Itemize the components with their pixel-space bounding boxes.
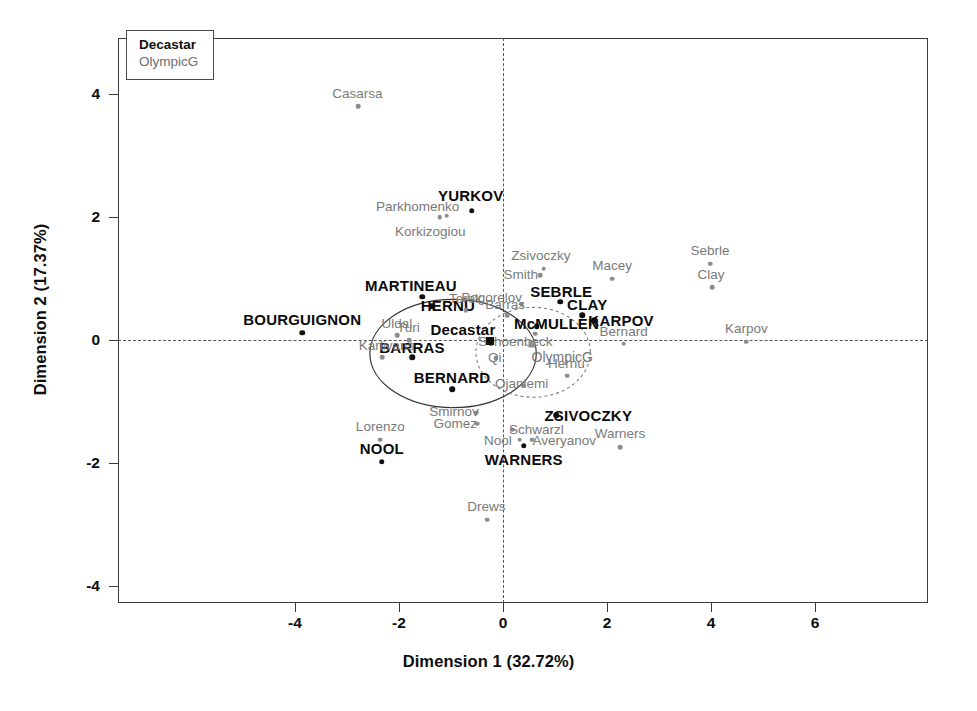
point-label: Parkhomenko bbox=[376, 198, 459, 213]
data-point bbox=[521, 443, 527, 449]
point-label: Bernard bbox=[600, 323, 648, 338]
x-tick-label: -2 bbox=[392, 614, 406, 632]
point-label: Lorenzo bbox=[356, 419, 405, 434]
point-label: Warners bbox=[595, 426, 646, 441]
data-point bbox=[505, 313, 510, 318]
point-label: MARTINEAU bbox=[365, 276, 457, 293]
data-point bbox=[538, 273, 543, 278]
legend-entry-olympicg: OlympicG bbox=[139, 53, 213, 70]
point-label: Smith bbox=[503, 267, 538, 282]
data-point bbox=[517, 437, 522, 442]
point-label: Terek bbox=[449, 291, 482, 306]
point-label: Nool bbox=[484, 432, 512, 447]
x-tick bbox=[815, 603, 816, 612]
data-point bbox=[445, 213, 450, 218]
data-point bbox=[469, 208, 475, 214]
x-tick bbox=[399, 603, 400, 612]
chart-canvas: -4-20246-4-2024 YURKOVMARTINEAUHERNUBOUR… bbox=[0, 0, 977, 711]
point-label: Casarsa bbox=[332, 85, 382, 100]
x-tick bbox=[607, 603, 608, 612]
point-label: OlympicG bbox=[532, 349, 593, 365]
data-point bbox=[409, 354, 415, 360]
centroid-marker bbox=[486, 337, 494, 345]
point-label: McMULLEN bbox=[514, 314, 599, 331]
data-point bbox=[565, 373, 570, 378]
data-point bbox=[463, 308, 468, 313]
y-tick bbox=[109, 340, 118, 341]
y-tick-label: 2 bbox=[74, 208, 100, 226]
y-tick bbox=[109, 586, 118, 587]
x-tick bbox=[711, 603, 712, 612]
data-point bbox=[744, 340, 749, 345]
data-point bbox=[300, 330, 306, 336]
x-tick-label: 6 bbox=[811, 614, 820, 632]
point-label: Macey bbox=[592, 257, 632, 272]
data-point bbox=[449, 386, 455, 392]
data-point bbox=[437, 215, 442, 220]
point-label: Turi bbox=[397, 320, 420, 335]
x-tick bbox=[503, 603, 504, 612]
data-point bbox=[610, 276, 615, 281]
data-point bbox=[618, 445, 623, 450]
point-label: BERNARD bbox=[414, 368, 490, 385]
point-label: Barras bbox=[485, 297, 525, 312]
data-point bbox=[379, 459, 385, 465]
x-tick-label: -4 bbox=[288, 614, 302, 632]
point-label: CLAY bbox=[567, 296, 607, 313]
data-point bbox=[380, 355, 385, 360]
point-label: Korkizogiou bbox=[395, 223, 466, 238]
point-label: BOURGUIGNON bbox=[243, 311, 361, 328]
x-tick-label: 2 bbox=[603, 614, 612, 632]
y-tick-label: 4 bbox=[74, 85, 100, 103]
point-label: Clay bbox=[697, 266, 724, 281]
x-axis-title: Dimension 1 (32.72%) bbox=[0, 652, 977, 671]
y-tick bbox=[109, 94, 118, 95]
data-point bbox=[485, 517, 490, 522]
point-label: Drews bbox=[467, 499, 505, 514]
point-label: Sebrle bbox=[690, 243, 729, 258]
centroid-marker bbox=[529, 340, 536, 347]
x-tick-label: 0 bbox=[499, 614, 508, 632]
point-label: Gomez bbox=[433, 416, 477, 431]
point-label: Zsivoczky bbox=[511, 248, 570, 263]
point-label: WARNERS bbox=[485, 451, 563, 468]
point-label: Karlivans bbox=[359, 337, 415, 352]
data-point bbox=[557, 299, 563, 305]
data-point bbox=[541, 266, 546, 271]
data-point bbox=[378, 437, 383, 442]
point-label: Qi bbox=[488, 350, 502, 365]
legend-entry-decastar: Decastar bbox=[139, 36, 213, 53]
data-point bbox=[356, 104, 361, 109]
y-tick bbox=[109, 463, 118, 464]
y-tick bbox=[109, 217, 118, 218]
y-tick-label: -4 bbox=[74, 577, 100, 595]
point-label: Decastar bbox=[430, 320, 495, 337]
point-label: NOOL bbox=[360, 440, 404, 457]
x-tick bbox=[295, 603, 296, 612]
legend-box: Decastar OlympicG bbox=[126, 30, 214, 80]
x-tick-label: 4 bbox=[707, 614, 716, 632]
point-label: Karpov bbox=[725, 321, 768, 336]
point-label: Ojaniemi bbox=[495, 376, 548, 391]
y-tick-label: 0 bbox=[74, 331, 100, 349]
point-label: Averyanov bbox=[533, 432, 597, 447]
y-axis-title: Dimension 2 (17.37%) bbox=[31, 150, 50, 470]
data-point bbox=[621, 341, 626, 346]
data-point bbox=[710, 285, 715, 290]
y-tick-label: -2 bbox=[74, 454, 100, 472]
